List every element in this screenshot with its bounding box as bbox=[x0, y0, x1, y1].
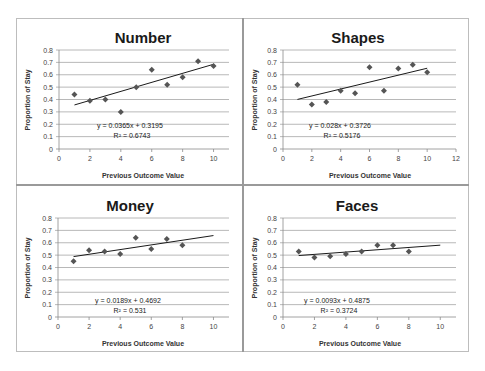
data-point-marker bbox=[86, 247, 92, 253]
y-axis-title: Proportion of Stay bbox=[251, 69, 259, 130]
x-axis-title: Previous Outcome Value bbox=[102, 172, 184, 179]
x-tick-label: 6 bbox=[150, 155, 154, 162]
trendline-equation: y = 0.0093x + 0.4875 bbox=[304, 297, 370, 305]
y-tick-label: 0.1 bbox=[267, 301, 277, 308]
data-point-marker bbox=[71, 258, 77, 264]
x-tick-label: 2 bbox=[310, 155, 314, 162]
y-tick-label: 0.6 bbox=[267, 239, 277, 246]
r-squared-label: R² = 0.5176 bbox=[324, 132, 361, 139]
data-point-marker bbox=[133, 235, 139, 241]
chart-title: Money bbox=[106, 197, 154, 214]
y-tick-label: 0.3 bbox=[267, 108, 277, 115]
data-point-marker bbox=[117, 251, 123, 257]
y-tick-label: 0 bbox=[48, 314, 52, 321]
chart-faces: 00.10.20.30.40.50.60.70.80246810 Faces P… bbox=[251, 197, 456, 347]
x-tick-label: 0 bbox=[281, 323, 285, 330]
y-tick-label: 0.7 bbox=[267, 227, 277, 234]
y-tick-label: 0.7 bbox=[42, 227, 52, 234]
plot-area: 00.10.20.30.40.50.60.70.80246810 bbox=[43, 47, 229, 163]
y-tick-label: 0.3 bbox=[43, 108, 53, 115]
trendline-equation: y = 0.0365x + 0.3195 bbox=[97, 122, 163, 130]
chart-title: Faces bbox=[336, 197, 379, 214]
y-tick-label: 0.6 bbox=[42, 239, 52, 246]
data-point-marker bbox=[149, 67, 155, 73]
data-point-marker bbox=[359, 248, 365, 254]
data-point-marker bbox=[211, 63, 217, 69]
plot-area: 00.10.20.30.40.50.60.70.8024681012 bbox=[267, 47, 460, 163]
data-point-marker bbox=[148, 246, 154, 252]
y-tick-label: 0.6 bbox=[43, 71, 53, 78]
trendline bbox=[299, 245, 441, 255]
x-tick-label: 0 bbox=[56, 323, 60, 330]
y-tick-label: 0.8 bbox=[267, 47, 277, 54]
x-tick-label: 10 bbox=[423, 155, 431, 162]
data-point-marker bbox=[381, 88, 387, 94]
data-point-marker bbox=[309, 101, 315, 107]
y-tick-label: 0.8 bbox=[42, 215, 52, 222]
data-point-marker bbox=[352, 90, 358, 96]
trendline-equation: y = 0.028x + 0.3726 bbox=[309, 122, 371, 130]
y-tick-label: 0.6 bbox=[267, 71, 277, 78]
x-tick-label: 10 bbox=[210, 155, 218, 162]
x-tick-label: 2 bbox=[88, 155, 92, 162]
chart-number: 00.10.20.30.40.50.60.70.80246810 Number … bbox=[24, 29, 229, 179]
x-axis-title: Previous Outcome Value bbox=[329, 172, 411, 179]
y-tick-label: 0.7 bbox=[43, 59, 53, 66]
data-point-marker bbox=[296, 248, 302, 254]
y-tick-label: 0.2 bbox=[43, 121, 53, 128]
trendline-equation: y = 0.0189x + 0.4692 bbox=[95, 297, 161, 305]
r-squared-label: R² = 0.531 bbox=[114, 307, 147, 314]
data-point-marker bbox=[71, 92, 77, 98]
data-point-marker bbox=[406, 248, 412, 254]
y-tick-label: 0.2 bbox=[42, 289, 52, 296]
y-tick-label: 0.4 bbox=[267, 96, 277, 103]
x-tick-label: 4 bbox=[344, 323, 348, 330]
data-point-marker bbox=[395, 66, 401, 72]
data-point-marker bbox=[118, 109, 124, 115]
data-point-marker bbox=[195, 58, 201, 64]
x-tick-label: 6 bbox=[368, 155, 372, 162]
y-tick-label: 0.1 bbox=[42, 301, 52, 308]
x-tick-label: 12 bbox=[452, 155, 460, 162]
data-point-marker bbox=[133, 84, 139, 90]
x-tick-label: 4 bbox=[118, 323, 122, 330]
data-point-marker bbox=[367, 64, 373, 70]
x-tick-label: 2 bbox=[313, 323, 317, 330]
trendline bbox=[74, 236, 214, 257]
chart-title: Number bbox=[115, 29, 172, 46]
y-tick-label: 0.5 bbox=[267, 252, 277, 259]
x-tick-label: 10 bbox=[210, 323, 218, 330]
chart-shapes: 00.10.20.30.40.50.60.70.8024681012 Shape… bbox=[251, 29, 460, 179]
chart-title: Shapes bbox=[331, 29, 384, 46]
charts-canvas: 00.10.20.30.40.50.60.70.80246810 Number … bbox=[0, 0, 485, 371]
x-axis-title: Previous Outcome Value bbox=[319, 340, 401, 347]
r-squared-label: R² = 0.6743 bbox=[114, 132, 151, 139]
data-point-marker bbox=[102, 97, 108, 103]
data-point-marker bbox=[102, 248, 108, 254]
data-point-marker bbox=[327, 253, 333, 259]
y-tick-label: 0.7 bbox=[267, 59, 277, 66]
x-tick-label: 0 bbox=[57, 155, 61, 162]
trendline bbox=[74, 64, 213, 105]
x-axis-title: Previous Outcome Value bbox=[102, 340, 184, 347]
y-tick-label: 0.1 bbox=[267, 133, 277, 140]
y-tick-label: 0.4 bbox=[43, 96, 53, 103]
chart-money: 00.10.20.30.40.50.60.70.80246810 Money P… bbox=[24, 197, 229, 347]
y-axis-title: Proportion of Stay bbox=[24, 69, 32, 130]
r-squared-label: R² = 0.3724 bbox=[321, 307, 358, 314]
x-tick-label: 8 bbox=[407, 323, 411, 330]
plot-area: 00.10.20.30.40.50.60.70.80246810 bbox=[267, 215, 456, 331]
y-tick-label: 0 bbox=[49, 146, 53, 153]
x-tick-label: 4 bbox=[339, 155, 343, 162]
trendline bbox=[297, 68, 427, 99]
x-tick-label: 10 bbox=[436, 323, 444, 330]
x-tick-label: 8 bbox=[181, 155, 185, 162]
y-tick-label: 0 bbox=[273, 314, 277, 321]
x-tick-label: 6 bbox=[375, 323, 379, 330]
x-tick-label: 4 bbox=[119, 155, 123, 162]
y-axis-title: Proportion of Stay bbox=[24, 237, 32, 298]
y-tick-label: 0.2 bbox=[267, 121, 277, 128]
x-tick-label: 8 bbox=[396, 155, 400, 162]
y-tick-label: 0.4 bbox=[267, 264, 277, 271]
y-tick-label: 0.1 bbox=[43, 133, 53, 140]
